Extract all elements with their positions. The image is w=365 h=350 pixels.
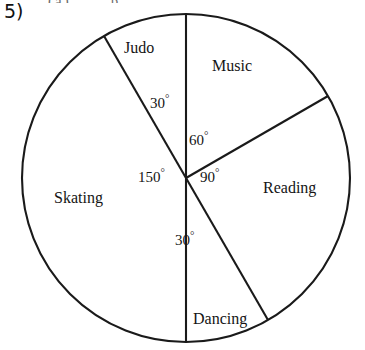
angle-label-music: 60° <box>189 133 208 148</box>
angle-label-skating: 150° <box>138 170 165 185</box>
angle-value-dancing: 30 <box>175 232 190 248</box>
angle-label-judo: 30° <box>150 96 169 111</box>
angle-value-music: 60 <box>189 132 204 148</box>
degree-symbol-music: ° <box>204 129 208 141</box>
slice-label-skating: Skating <box>54 190 103 206</box>
angle-value-reading: 90 <box>200 169 215 185</box>
slice-label-reading: Reading <box>263 180 316 196</box>
degree-symbol-judo: ° <box>165 92 169 104</box>
degree-symbol-dancing: ° <box>190 229 194 241</box>
slice-label-dancing: Dancing <box>193 311 247 327</box>
angle-label-dancing: 30° <box>175 233 194 248</box>
angle-label-reading: 90° <box>200 170 219 185</box>
angle-value-skating: 150 <box>138 169 161 185</box>
degree-symbol-skating: ° <box>161 166 165 178</box>
slice-label-judo: Judo <box>124 40 154 56</box>
degree-symbol-reading: ° <box>215 166 219 178</box>
pie-diagram <box>0 0 365 350</box>
angle-value-judo: 30 <box>150 95 165 111</box>
slice-label-music: Music <box>212 58 252 74</box>
pie-chart-figure: (a) ___ p 5) Judo Music Reading Skating … <box>0 0 365 350</box>
